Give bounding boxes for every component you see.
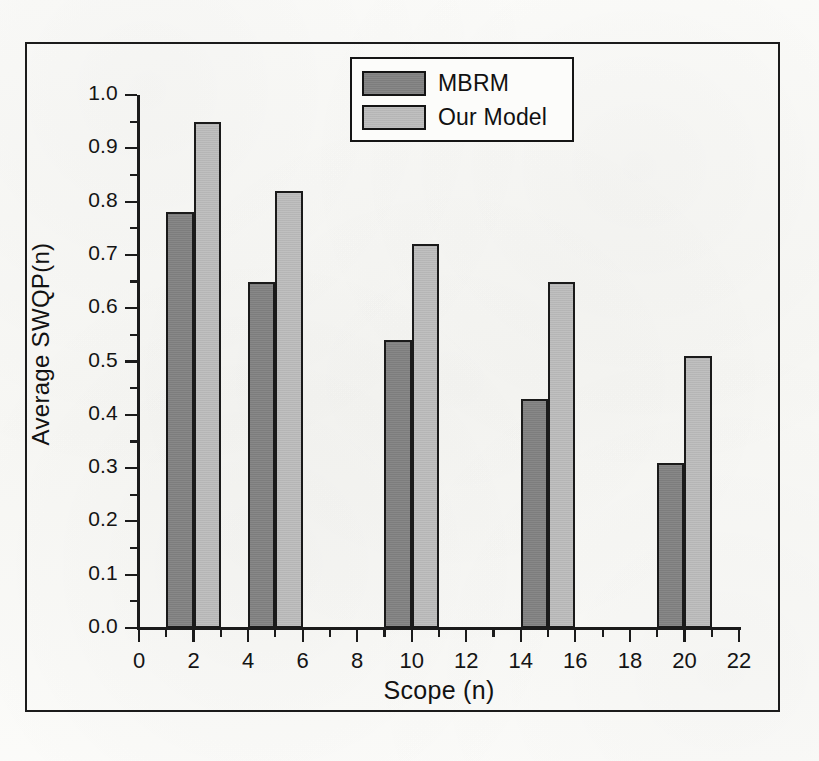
x-tick-label: 12 [436, 648, 496, 674]
legend-label-mbrm: MBRM [438, 70, 509, 97]
legend-swatch-our-model [362, 105, 426, 130]
x-tick-label: 18 [600, 648, 660, 674]
x-tick-label: 6 [273, 648, 333, 674]
x-axis-title: Scope (n) [139, 676, 739, 705]
x-tick-label: 22 [709, 648, 769, 674]
y-axis-title: Average SWQP(n) [27, 84, 55, 604]
legend-swatch-mbrm [362, 71, 426, 96]
x-tick-label: 14 [491, 648, 551, 674]
x-tick-label: 20 [654, 648, 714, 674]
legend-item-our-model: Our Model [362, 100, 572, 134]
x-tick-label: 4 [218, 648, 278, 674]
x-tick-label: 0 [109, 648, 169, 674]
x-tick-label: 16 [545, 648, 605, 674]
legend-item-mbrm: MBRM [362, 66, 572, 100]
chart-legend: MBRM Our Model [350, 57, 574, 142]
x-tick-label: 8 [327, 648, 387, 674]
x-tick-label: 10 [382, 648, 442, 674]
legend-label-our-model: Our Model [438, 104, 547, 131]
x-tick-label: 2 [164, 648, 224, 674]
